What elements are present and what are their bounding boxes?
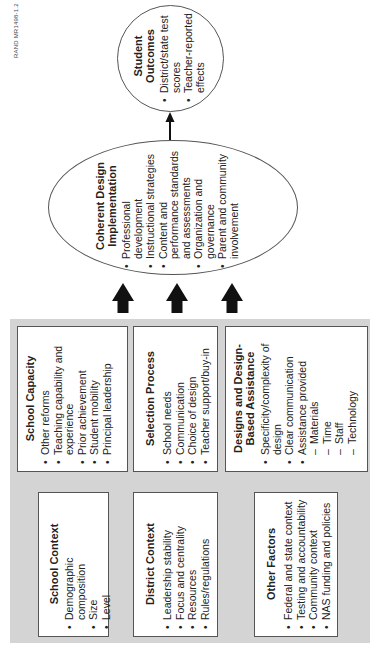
- box-title: School Capacity: [24, 333, 36, 464]
- list-item: School needs: [162, 333, 174, 464]
- box-title: Selection Process: [144, 333, 156, 464]
- other-factors-box: Other Factors Federal and state context …: [254, 492, 338, 637]
- implementation-content: Coherent Design Implementation Professio…: [94, 144, 241, 268]
- school-capacity-box: School Capacity Other reforms Teaching c…: [17, 326, 128, 472]
- list-item: Content and performance standards and as…: [158, 144, 193, 268]
- list-item: Community context: [308, 499, 320, 629]
- implementation-title: Coherent Design Implementation: [94, 144, 118, 268]
- list-item: Clear communication: [284, 333, 296, 464]
- list-item: Organization and governance: [193, 144, 216, 268]
- sub-list-item: Time: [322, 333, 334, 464]
- list-item: Size: [88, 499, 100, 629]
- list-item: Focus and centrality: [175, 499, 187, 629]
- list-item: Student mobility: [89, 333, 101, 464]
- list-item: District/state test scores: [159, 10, 182, 102]
- figure-label: RAND MR1498-1.2: [13, 3, 19, 58]
- sub-list-item: Staff: [334, 333, 346, 464]
- list-item: Federal and state context: [283, 499, 295, 629]
- diagram-canvas: RAND MR1498-1.2 School Capacity Other re…: [0, 0, 370, 654]
- box-title: District Context: [144, 499, 156, 629]
- box-title: Other Factors: [265, 499, 277, 629]
- designs-assistance-box: Designs and Design-Based Assistance Spec…: [225, 326, 368, 472]
- list-item: Prior achievement: [77, 333, 89, 464]
- list-item: Level: [101, 499, 113, 629]
- school-context-box: School Context Demographic composition S…: [38, 492, 109, 637]
- list-item: Teacher support/buy-in: [200, 333, 212, 464]
- selection-process-box: Selection Process School needs Communica…: [133, 326, 218, 472]
- block-arrow-icon: [166, 283, 188, 313]
- list-item: Professional development: [121, 144, 144, 268]
- list-item: Specificity/complexity of design: [260, 333, 283, 464]
- list-item: NAS funding and policies: [321, 499, 333, 629]
- block-arrow-icon: [112, 283, 134, 313]
- sub-list-item: Technology: [347, 333, 359, 464]
- list-item: Resources: [187, 499, 199, 629]
- list-item: Choice of design: [187, 333, 199, 464]
- list-item: Principal leadership: [102, 333, 114, 464]
- block-arrow-icon: [221, 283, 243, 313]
- district-context-box: District Context Leadership stability Fo…: [133, 492, 218, 637]
- arrow-right-icon: [164, 112, 176, 140]
- outcomes-title: Student Outcomes: [132, 10, 156, 102]
- list-item: Demographic composition: [64, 499, 87, 629]
- list-item: Assistance provided: [297, 333, 309, 464]
- list-item: Teaching capability and experience: [53, 333, 76, 464]
- box-title: School Context: [48, 499, 60, 629]
- list-item: Instructional strategies: [145, 144, 157, 268]
- list-item: Testing and accountability: [296, 499, 308, 629]
- list-item: Parent and community involvement: [217, 144, 240, 268]
- list-item: Leadership stability: [162, 499, 174, 629]
- list-item: Other reforms: [40, 333, 52, 464]
- sub-list-item: Materials: [309, 333, 321, 464]
- outcomes-content: Student Outcomes District/state test sco…: [132, 10, 207, 102]
- list-item: Rules/regulations: [200, 499, 212, 629]
- box-title: Designs and Design-Based Assistance: [232, 333, 256, 464]
- list-item: Teacher-reported effects: [183, 10, 206, 102]
- list-item: Communication: [175, 333, 187, 464]
